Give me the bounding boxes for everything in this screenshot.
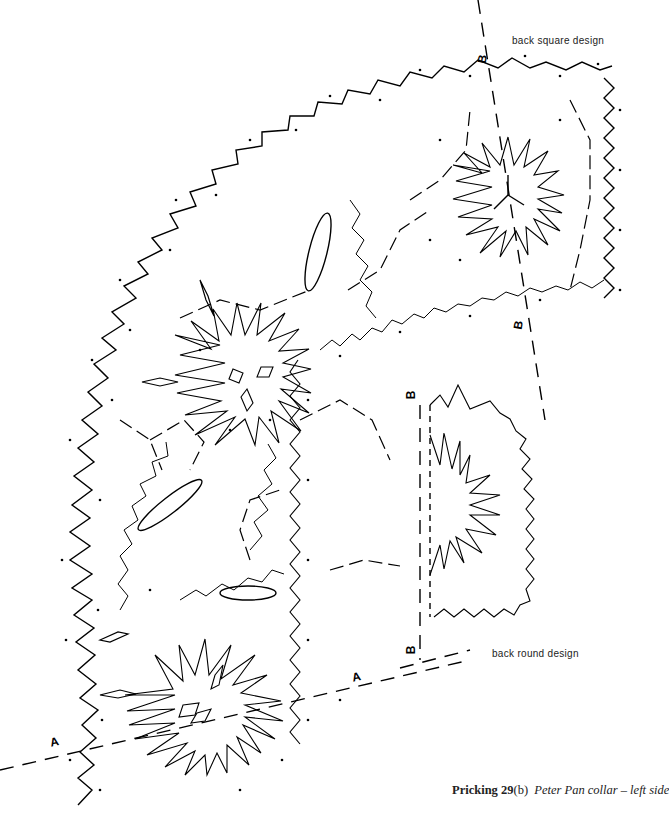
back-round-design-label: back round design [492,648,579,659]
star-motif-upper [175,303,311,445]
star-motif-back-round [430,385,534,617]
pin-holes [61,55,622,792]
back-square-design-label: back square design [512,35,604,46]
b-marker-round-bottom: B [404,646,418,655]
a-cut-line [0,660,470,770]
diamond [142,378,178,386]
figure-caption: Pricking 29(b) Peter Pan collar – left s… [452,783,669,798]
right-edge-zigzag [604,78,614,298]
diamond [100,632,128,642]
caption-number: 29 [501,783,514,797]
star-motif-back-square [453,137,564,257]
caption-suffix: (b) [513,783,528,797]
inner-edge-zigzag-top [320,280,604,350]
outer-edge-zigzag [70,58,612,805]
caption-prefix: Pricking [452,783,501,797]
star-motif-lower [125,639,283,775]
diamond [200,280,214,316]
ellipse-leaf [220,586,276,600]
ellipse-leaf [300,211,337,293]
b-marker-round-top: B [404,391,418,400]
caption-title: Peter Pan collar – left side [534,783,669,797]
ellipse-leaf [134,474,207,536]
